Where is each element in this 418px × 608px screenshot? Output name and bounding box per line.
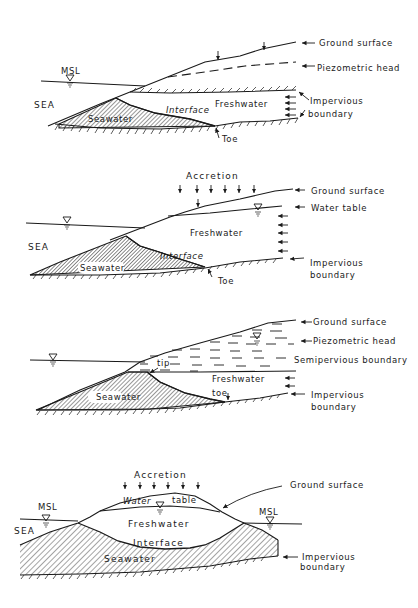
sea-level-line: [26, 223, 145, 228]
piezometric-head-label: Piezometric head: [317, 63, 400, 73]
freshwater-flow-arrows: [278, 216, 288, 251]
sea-label: SEA: [34, 100, 55, 110]
sea-level-right-line: [243, 523, 302, 524]
ground-surface-label: Ground surface: [319, 38, 393, 48]
impervious-label-line1: Impervious: [311, 390, 364, 400]
sea-level-line: [30, 360, 145, 362]
semipervious-boundary-label: Semipervious boundary: [294, 355, 408, 365]
freshwater-label: Freshwater: [215, 99, 268, 109]
freshwater-label: Freshwater: [190, 228, 243, 238]
water-table-line: [100, 506, 220, 512]
water-level-symbol-icon: [63, 217, 71, 229]
tip-label: tip: [157, 358, 170, 368]
interface-label: Interface: [160, 251, 203, 261]
msl-left-label: MSL: [38, 502, 57, 512]
freshwater-label: Freshwater: [212, 374, 265, 384]
impervious-pointer-icon: [290, 258, 304, 259]
water-table-symbol-icon: [156, 502, 164, 514]
freshwater-flow-arrows: [285, 378, 295, 386]
toe-pointer-icon: [208, 269, 212, 277]
interface-label: Interface: [166, 105, 209, 115]
upper-confining-boundary: [130, 90, 296, 93]
ground-surface-label: Ground surface: [313, 317, 387, 327]
impervious-label-line1: Impervious: [302, 552, 355, 562]
piezometric-symbol-icon: [253, 333, 261, 345]
seawater-label: Seawater: [96, 392, 141, 402]
msl-label: MSL: [61, 66, 80, 76]
impervious-pointer-top-icon: [299, 92, 309, 100]
impervious-label-line2: boundary: [311, 402, 356, 412]
ground-surface-label: Ground surface: [311, 186, 385, 196]
toe-label: toe: [212, 388, 228, 398]
toe-label: Toe: [217, 276, 234, 286]
ground-surface-label: Ground surface: [290, 480, 364, 490]
seawater-label: Seawater: [88, 114, 133, 124]
water-table-line: [168, 206, 282, 216]
water-table-label: Water table: [311, 203, 367, 213]
impervious-label-line2: boundary: [300, 562, 345, 572]
water-table-label-part1: Water: [123, 496, 151, 506]
ground-surface-pointer-icon: [223, 486, 282, 508]
sea-label: SEA: [28, 242, 49, 252]
coastal-aquifer-figure: MSL SEA Seawater Interface: [0, 0, 418, 608]
sea-label: SEA: [14, 526, 35, 536]
impervious-label-line2: boundary: [308, 109, 353, 119]
water-table-symbol-icon: [254, 204, 262, 216]
toe-pointer-icon: [216, 128, 219, 138]
freshwater-label: Freshwater: [128, 519, 190, 529]
panel-oceanic-island: MSL MSL SEA Accretion Water ta: [14, 470, 364, 579]
interface-label: Interface: [133, 538, 184, 548]
impervious-label-line1: Impervious: [310, 96, 363, 106]
piezometric-head-label: Piezometric head: [313, 336, 396, 346]
panel-leaky-aquifer: Seawater tip Freshwater toe Ground surfa…: [30, 317, 408, 415]
panel-unconfined-aquifer: SEA Accretion Seawater Interface Freshwa…: [26, 171, 385, 286]
water-level-symbol-icon: [66, 75, 74, 87]
accretion-label: Accretion: [186, 171, 239, 181]
seawater-label: Seawater: [80, 263, 125, 273]
impervious-pointer-bottom-icon: [300, 110, 305, 117]
accretion-arrows: [125, 482, 198, 489]
impervious-label-line1: Impervious: [310, 258, 363, 268]
seawater-label: Seawater: [104, 554, 156, 564]
sea-level-left-line: [20, 519, 78, 521]
msl-right-label: MSL: [259, 507, 278, 517]
sea-level-line: [41, 81, 145, 86]
freshwater-flow-arrows: [285, 97, 296, 115]
toe-label: Toe: [221, 134, 238, 144]
seawater-wedge: [36, 372, 225, 410]
msl-left-symbol-icon: [42, 515, 50, 527]
panel-confined-aquifer: MSL SEA Seawater Interface: [34, 38, 400, 144]
seawater-body: [20, 523, 278, 575]
accretion-label: Accretion: [134, 470, 187, 480]
impervious-label-line2: boundary: [310, 270, 355, 280]
water-table-label-part2: table: [172, 495, 197, 505]
